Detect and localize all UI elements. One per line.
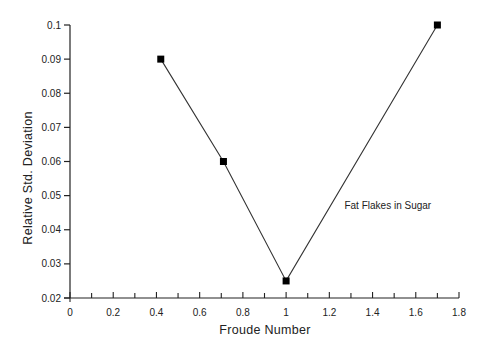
square-marker	[283, 277, 290, 284]
series-annotation: Fat Flakes in Sugar	[344, 200, 431, 211]
x-tick-label: 1.6	[409, 307, 423, 318]
x-axis: 00.20.40.60.811.21.41.61.8	[64, 292, 466, 318]
x-tick-label: 0.8	[236, 307, 250, 318]
x-tick-label: 1.8	[452, 307, 466, 318]
square-marker	[157, 56, 164, 63]
y-tick-label: 0.08	[42, 88, 62, 99]
y-tick-label: 0.09	[42, 54, 62, 65]
square-marker	[434, 22, 441, 29]
x-tick-label: 0.6	[193, 307, 207, 318]
y-tick-label: 0.1	[47, 20, 61, 31]
y-tick-label: 0.02	[42, 293, 62, 304]
x-tick-label: 0	[67, 307, 73, 318]
x-axis-title: Froude Number	[219, 323, 310, 337]
y-tick-label: 0.05	[42, 190, 62, 201]
data-series	[157, 22, 441, 285]
y-tick-label: 0.04	[42, 224, 62, 235]
y-tick-label: 0.07	[42, 122, 62, 133]
series-line	[161, 25, 438, 281]
x-tick-label: 1.2	[322, 307, 336, 318]
square-marker	[220, 158, 227, 165]
line-chart: 0.020.030.040.050.060.070.080.090.1 00.2…	[0, 0, 483, 351]
y-axis-title: Relative Std. Deviation	[21, 111, 35, 244]
y-axis: 0.020.030.040.050.060.070.080.090.1	[42, 20, 70, 304]
x-tick-label: 1.4	[366, 307, 380, 318]
x-tick-label: 1	[283, 307, 289, 318]
x-tick-label: 0.4	[149, 307, 163, 318]
y-tick-label: 0.06	[42, 156, 62, 167]
y-tick-label: 0.03	[42, 258, 62, 269]
x-tick-label: 0.2	[106, 307, 120, 318]
